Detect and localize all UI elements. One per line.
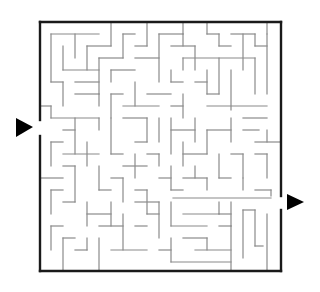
maze-frame bbox=[40, 22, 281, 271]
entrance-arrow-icon bbox=[16, 118, 33, 137]
exit-arrow-icon bbox=[287, 194, 304, 210]
maze-walls bbox=[40, 22, 281, 271]
maze-puzzle bbox=[0, 0, 320, 292]
